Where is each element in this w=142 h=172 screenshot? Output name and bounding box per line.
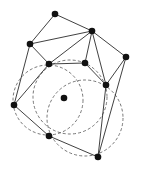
triangle-edge [30, 44, 49, 64]
triangle-edge [98, 85, 106, 157]
triangle-edge [55, 14, 92, 31]
triangle-edge [92, 31, 126, 57]
dashed-circumcircle [33, 60, 107, 134]
point-node [46, 61, 53, 68]
points-group [11, 11, 130, 161]
triangle-edge [92, 31, 106, 85]
point-node [27, 41, 34, 48]
point-node [11, 102, 18, 109]
point-node [46, 133, 53, 140]
delaunay-diagram [0, 0, 142, 172]
point-node [61, 95, 68, 102]
triangle-edge [49, 136, 98, 157]
point-node [103, 82, 110, 89]
dashed-circumcircle [13, 65, 83, 135]
point-node [52, 11, 59, 18]
triangle-edge [14, 105, 49, 136]
point-node [123, 54, 130, 61]
dashed-circumcircle [47, 80, 123, 156]
empty-circles-group [13, 60, 123, 156]
point-node [89, 28, 96, 35]
triangle-edge [106, 57, 126, 85]
point-node [95, 154, 102, 161]
point-node [82, 60, 89, 67]
